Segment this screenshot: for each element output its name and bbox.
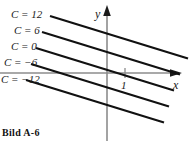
contour-line-c0 — [36, 48, 174, 91]
contour-line-cm6 — [31, 64, 169, 107]
x-axis-label: x — [173, 79, 178, 91]
contour-label-c0: C = 0 — [11, 41, 37, 52]
contour-line-cm12 — [26, 80, 164, 123]
y-axis-label: y — [95, 8, 100, 20]
figure-caption: Bild A-6 — [2, 128, 40, 138]
figure-page: C = 12 C = 6 C = 0 C = −6 C = −12 y x 1 … — [0, 0, 190, 141]
contour-label-cm12: C = −12 — [1, 74, 40, 85]
level-curves-diagram — [0, 0, 190, 141]
contour-label-c12: C = 12 — [11, 9, 42, 20]
contour-label-c6: C = 6 — [14, 25, 40, 36]
contour-line-c6 — [42, 32, 180, 75]
x-axis-tick-label-1: 1 — [121, 80, 127, 91]
y-axis-arrowhead — [103, 5, 111, 16]
contour-label-cm6: C = −6 — [4, 57, 37, 68]
contour-line-c12 — [50, 16, 188, 59]
